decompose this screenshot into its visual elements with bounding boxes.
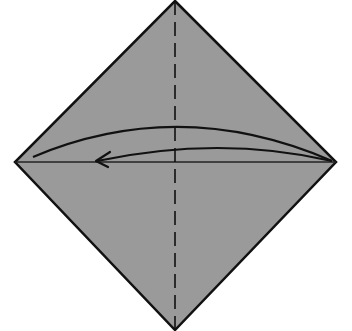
origami-diagram: Origami fold step: fold right corner to …: [0, 0, 352, 331]
diagram-canvas: [0, 0, 352, 331]
